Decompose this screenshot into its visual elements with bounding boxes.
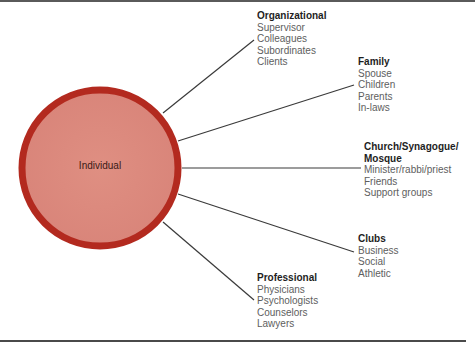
group-item: Subordinates — [257, 45, 326, 57]
group-family: Family Spouse Children Parents In-laws — [358, 56, 395, 114]
group-heading: Clubs — [358, 233, 399, 245]
group-professional: Professional Physicians Psychologists Co… — [257, 272, 318, 330]
connector-clubs — [178, 194, 354, 252]
connector-professional — [163, 222, 254, 300]
connector-organizational — [163, 40, 254, 113]
individual-label: Individual — [60, 160, 140, 171]
group-item: Social — [358, 256, 399, 268]
group-item: Friends — [364, 176, 474, 188]
group-heading: Professional — [257, 272, 318, 284]
group-item: Counselors — [257, 307, 318, 319]
group-item: Spouse — [358, 68, 395, 80]
group-item: Children — [358, 79, 395, 91]
group-item: Clients — [257, 56, 326, 68]
bottom-rule — [0, 340, 466, 342]
group-heading: Family — [358, 56, 395, 68]
group-item: Supervisor — [257, 22, 326, 34]
group-item: Parents — [358, 91, 395, 103]
group-item: Colleagues — [257, 33, 326, 45]
group-item: Minister/rabbi/priest — [364, 164, 474, 176]
connector-family — [178, 85, 354, 141]
group-heading-line-1: Church/Synagogue/ — [364, 141, 474, 153]
group-item: Physicians — [257, 284, 318, 296]
group-heading-line-2: Mosque — [364, 153, 474, 165]
group-item: Business — [358, 245, 399, 257]
group-church: Church/Synagogue/ Mosque Minister/rabbi/… — [364, 141, 474, 199]
group-item: Athletic — [358, 268, 399, 280]
group-item: Support groups — [364, 187, 474, 199]
group-item: Lawyers — [257, 318, 318, 330]
group-heading: Organizational — [257, 10, 326, 22]
group-clubs: Clubs Business Social Athletic — [358, 233, 399, 279]
group-organizational: Organizational Supervisor Colleagues Sub… — [257, 10, 326, 68]
group-item: Psychologists — [257, 295, 318, 307]
group-item: In-laws — [358, 102, 395, 114]
